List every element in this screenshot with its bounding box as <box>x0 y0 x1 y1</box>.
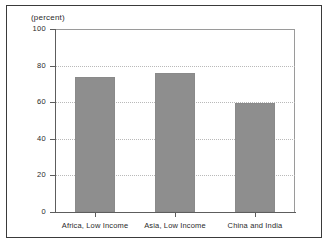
figure-root: (percent) 020406080100 Africa, Low Incom… <box>0 0 331 246</box>
bar <box>75 77 115 212</box>
x-axis-tick-mark <box>95 213 96 217</box>
y-axis-tick-label: 0 <box>6 208 46 216</box>
x-axis-tick-mark <box>255 213 256 217</box>
y-axis-tick-label: 80 <box>6 62 46 70</box>
y-axis-tick-label: 40 <box>6 135 46 143</box>
y-axis-tick-label: 20 <box>6 171 46 179</box>
x-axis-category-label: China and India <box>215 221 295 230</box>
bar <box>155 73 195 212</box>
y-axis-unit-caption: (percent) <box>31 13 65 22</box>
y-axis-tick-label: 60 <box>6 98 46 106</box>
y-axis-tick-label: 100 <box>6 25 46 33</box>
y-axis-line <box>55 29 56 213</box>
bar <box>235 103 275 212</box>
x-axis-category-label: Africa, Low Income <box>55 221 135 230</box>
x-axis-tick-mark <box>175 213 176 217</box>
x-axis-category-label: Asia, Low Income <box>135 221 215 230</box>
gridline <box>56 66 295 67</box>
x-axis-line <box>55 212 296 213</box>
